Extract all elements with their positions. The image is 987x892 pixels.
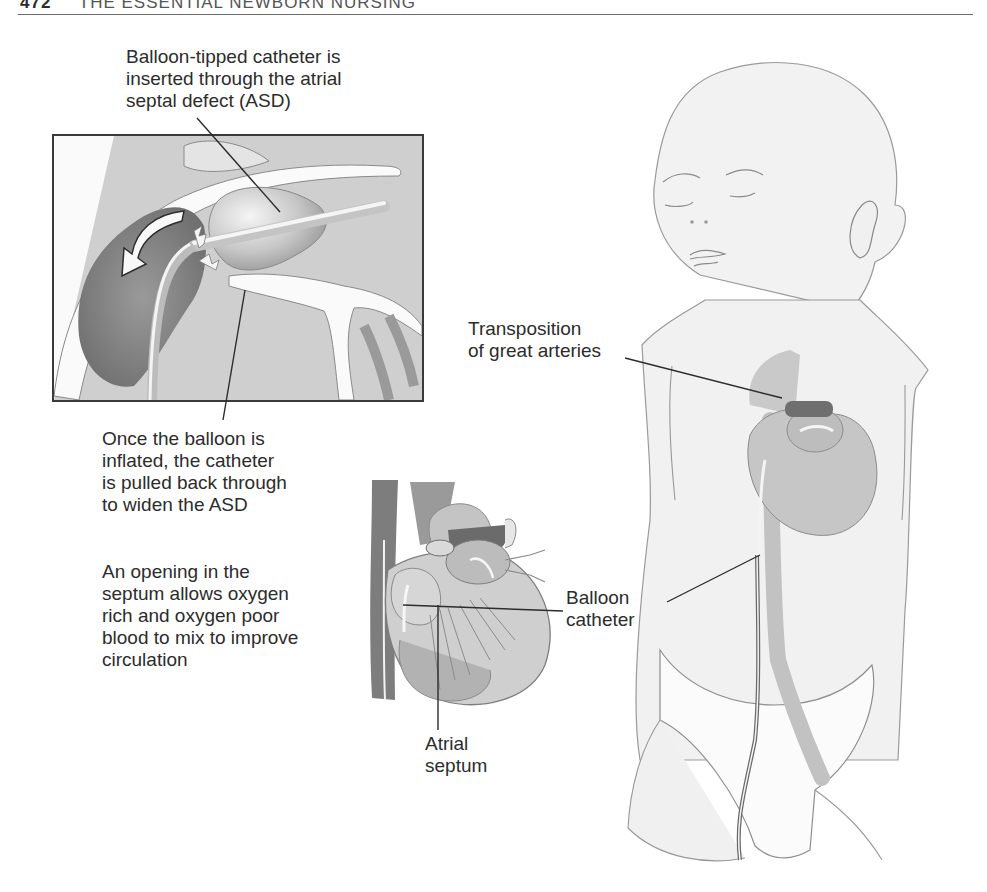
label-once-inflated: Once the balloon is inflated, the cathet…	[102, 428, 362, 516]
label-balloon-tipped-catheter: Balloon-tipped catheter is inserted thro…	[126, 46, 446, 112]
label-septal-opening: An opening in the septum allows oxygen r…	[102, 561, 362, 671]
label-atrial-septum: Atrial septum	[425, 733, 545, 777]
label-balloon-catheter: Balloon catheter	[566, 587, 686, 631]
label-transposition-great-arteries: Transposition of great arteries	[468, 318, 668, 362]
